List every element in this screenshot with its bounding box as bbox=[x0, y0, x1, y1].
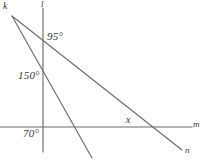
angle-label-x: x bbox=[126, 115, 130, 125]
line-label-l: l bbox=[41, 0, 44, 9]
line-label-m: m bbox=[193, 120, 200, 129]
vertex-label-k: k bbox=[3, 1, 7, 11]
angle-label-150: 150° bbox=[18, 70, 40, 81]
geometry-figure: k l 95° 150° 70° x m n bbox=[0, 0, 205, 162]
angle-label-70: 70° bbox=[23, 128, 39, 139]
line-label-n: n bbox=[185, 146, 190, 155]
angle-label-95: 95° bbox=[47, 31, 63, 42]
